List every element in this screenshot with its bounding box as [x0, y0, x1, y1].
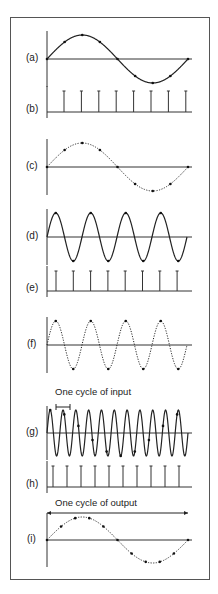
- sample-dot: [116, 166, 119, 169]
- sample-dot: [159, 320, 162, 323]
- sample-dot: [54, 212, 57, 215]
- sample-dot: [130, 552, 133, 555]
- sample-dot: [187, 58, 190, 61]
- sample-dot: [148, 439, 151, 442]
- sample-dot: [169, 183, 172, 186]
- sample-dot: [142, 260, 145, 263]
- sample-dot: [134, 75, 137, 78]
- sample-dot: [144, 561, 147, 564]
- sample-dot: [151, 82, 154, 85]
- label-h: (h): [26, 478, 38, 489]
- label-i: (i): [27, 533, 36, 544]
- sample-dot: [107, 368, 110, 371]
- sample-dot: [72, 260, 75, 263]
- sample-dot: [176, 413, 179, 416]
- sample-dot: [124, 320, 127, 323]
- sample-dot: [46, 58, 49, 61]
- sample-dot: [107, 260, 110, 263]
- sample-dot: [177, 260, 180, 263]
- sample-dot: [89, 320, 92, 323]
- label-d: (d): [26, 230, 38, 241]
- sample-dot: [119, 455, 122, 458]
- sample-dot: [162, 425, 165, 428]
- sample-dot: [46, 166, 49, 169]
- sample-dot: [142, 368, 145, 371]
- label-g: (g): [26, 426, 38, 437]
- label-b: (b): [26, 103, 38, 114]
- arrow-head-right: [184, 511, 188, 515]
- sample-dot: [91, 439, 94, 442]
- sample-dot: [159, 212, 162, 215]
- sample-dot: [63, 41, 66, 44]
- sample-dot: [177, 368, 180, 371]
- sample-dot: [99, 149, 102, 152]
- sample-dot: [116, 539, 119, 542]
- sample-dot: [173, 552, 176, 555]
- sample-dot: [187, 166, 190, 169]
- label-f: (f): [27, 338, 36, 349]
- sample-dot: [102, 525, 105, 528]
- sample-dot: [169, 75, 172, 78]
- sample-dot: [88, 517, 91, 520]
- sample-dot: [74, 517, 77, 520]
- sample-dot: [49, 409, 52, 412]
- label-e: (e): [26, 282, 38, 293]
- sample-dot: [89, 212, 92, 215]
- sample-dot: [99, 41, 102, 44]
- sample-dot: [151, 190, 154, 193]
- sample-dot: [124, 212, 127, 215]
- sample-dot: [81, 34, 84, 37]
- sample-dot: [116, 58, 119, 61]
- sample-dot: [60, 525, 63, 528]
- sample-dot: [54, 320, 57, 323]
- sample-dot: [72, 368, 75, 371]
- label-a: (a): [26, 52, 38, 63]
- sample-dot: [134, 450, 137, 453]
- sample-dot: [63, 149, 66, 152]
- output-cycle-caption: One cycle of output: [55, 497, 137, 508]
- sample-dot: [105, 450, 108, 453]
- sample-dot: [187, 539, 190, 542]
- arrow-head-left: [47, 511, 51, 515]
- input-cycle-caption: One cycle of input: [55, 386, 131, 397]
- sample-dot: [46, 539, 49, 542]
- sample-dot: [134, 183, 137, 186]
- sample-dot: [77, 425, 80, 428]
- label-c: (c): [26, 160, 38, 171]
- sample-dot: [159, 561, 162, 564]
- sample-dot: [63, 413, 66, 416]
- sample-dot: [81, 142, 84, 145]
